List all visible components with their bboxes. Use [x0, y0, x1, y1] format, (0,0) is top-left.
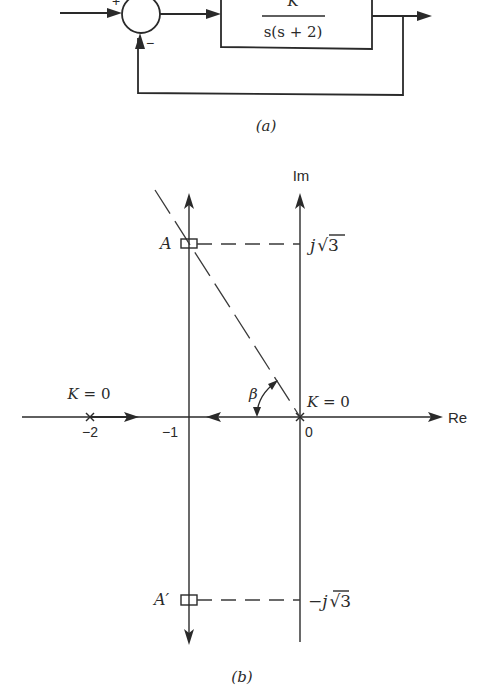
angle-arrow-bottom-icon	[253, 407, 261, 417]
upper-imag-value: j√3	[306, 235, 339, 255]
j-symbol: −j	[308, 591, 328, 611]
summing-junction	[122, 0, 160, 33]
tick-label-zero: 0	[305, 424, 313, 440]
gain-symbol: K	[67, 385, 80, 403]
point-a-label: A	[158, 234, 172, 253]
minus-sign: −	[146, 35, 154, 51]
root-locus-plot: Re Im K = 0 K = 0 −2 −1 0	[22, 167, 467, 686]
point-a-prime-label: A′	[152, 590, 170, 609]
imaginary-axis-label: Im	[293, 167, 310, 184]
feedback-arrow-icon	[135, 33, 145, 49]
caption-a: (a)	[256, 117, 277, 135]
lower-imag-value: −j√3	[308, 591, 351, 611]
tick-label-minus-one: −1	[162, 424, 178, 440]
tf-numerator: K	[286, 0, 299, 10]
plus-sign: +	[112, 0, 120, 9]
pole-label-minus-two: K = 0	[67, 385, 111, 403]
sqrt-three: √3	[330, 591, 352, 611]
gain-symbol: K	[306, 393, 319, 411]
tick-label-minus-two: −2	[82, 424, 98, 440]
angle-arrow-top-icon	[268, 380, 278, 390]
root-locus-figure: + − K s(s + 2) (a) Re Im	[0, 0, 486, 698]
caption-b: (b)	[231, 668, 252, 686]
error-arrow-icon	[206, 9, 221, 19]
real-axis-label: Re	[448, 409, 467, 426]
damping-ratio-line	[155, 190, 300, 417]
input-arrow-icon	[107, 8, 122, 18]
output-arrow-icon	[417, 11, 432, 21]
block-diagram: + − K s(s + 2) (a)	[60, 0, 432, 135]
tf-denominator: s(s + 2)	[264, 23, 323, 41]
pole-label-zero: K = 0	[306, 393, 350, 411]
angle-beta-label: β	[248, 385, 258, 403]
sqrt-three: √3	[317, 235, 339, 255]
j-symbol: j	[306, 235, 316, 255]
